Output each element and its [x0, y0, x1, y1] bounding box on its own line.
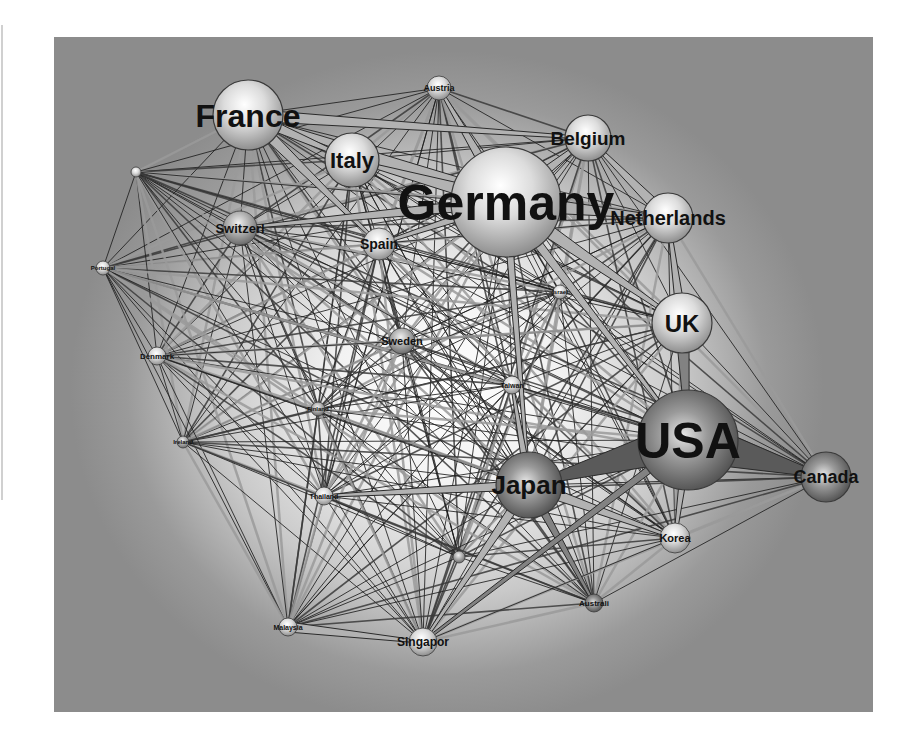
node-label-ireland: Ireland [173, 439, 193, 445]
edge [103, 172, 136, 268]
node-label-italy: Italy [330, 148, 375, 173]
edge [594, 477, 826, 603]
node-label-singapor: Singapor [397, 635, 449, 649]
edge [157, 356, 324, 496]
node-label-austria: Austria [423, 83, 455, 93]
node-unlabeled2[interactable] [453, 551, 465, 563]
node-label-japan: Japan [491, 470, 566, 500]
node-label-taiwan: Taiwan [500, 382, 523, 389]
node-label-switzerl: Switzerl [215, 221, 264, 236]
left-margin-rule [1, 25, 3, 500]
node-label-portugal: Portugal [91, 265, 116, 271]
network-graph: FranceAustriaBelgiumItalyGermanyNetherla… [54, 37, 873, 712]
node-label-france: France [196, 98, 301, 134]
node-label-malaysia: Malaysia [273, 624, 302, 632]
network-diagram-frame: FranceAustriaBelgiumItalyGermanyNetherla… [54, 37, 873, 712]
node-label-spain: Spain [360, 236, 398, 252]
node-unlabeled1[interactable] [131, 167, 141, 177]
node-label-usa: USA [635, 413, 741, 469]
node-label-israel: Israel [552, 289, 568, 295]
edge [136, 172, 318, 409]
edge [183, 442, 423, 642]
node-label-uk: UK [665, 310, 700, 337]
node-label-netherlands: Netherlands [610, 207, 726, 229]
edge [157, 356, 288, 627]
node-label-thailand: Thailand [310, 493, 339, 500]
node-label-germany: Germany [398, 175, 615, 231]
node-label-korea: Korea [659, 532, 691, 544]
node-label-australi: Australi [579, 599, 609, 608]
node-label-sweden: Sweden [381, 335, 423, 347]
node-label-canada: Canada [793, 467, 859, 487]
node-label-finland: Finland [307, 406, 329, 412]
node-label-belgium: Belgium [551, 128, 626, 149]
node-label-denmark: Denmark [140, 352, 175, 361]
